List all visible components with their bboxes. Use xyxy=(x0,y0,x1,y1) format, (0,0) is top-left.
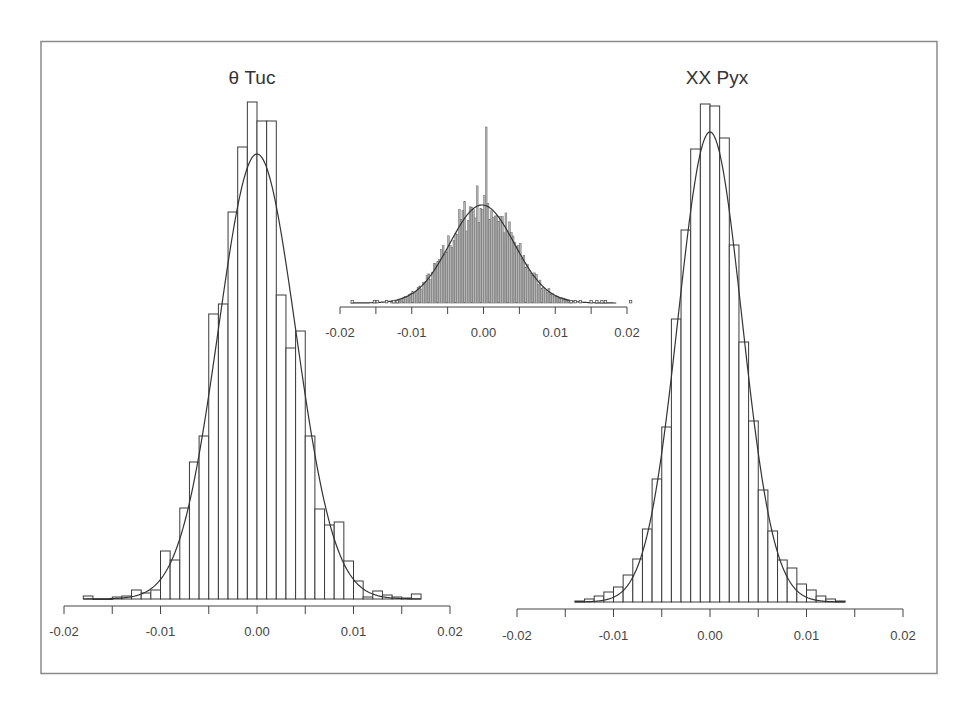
inset-histogram-bar xyxy=(446,252,448,303)
inset-histogram-bar xyxy=(421,289,423,303)
x-tick-label: -0.02 xyxy=(49,624,79,639)
inset-histogram-bar xyxy=(458,210,460,303)
x-tick-label: -0.01 xyxy=(397,325,427,340)
histogram-inset: -0.02-0.010.000.010.02 xyxy=(325,127,639,340)
inset-histogram-bar xyxy=(555,296,557,303)
histogram-theta-tuc: θ Tuc -0.02-0.010.000.010.02 xyxy=(49,67,462,639)
inset-histogram-bar xyxy=(469,207,471,303)
histogram-bar xyxy=(768,531,778,602)
inset-histogram-bar xyxy=(553,296,555,303)
histogram-xx-pyx: XX Pyx -0.02-0.010.000.010.02 xyxy=(502,67,915,643)
x-tick-label: 0.01 xyxy=(794,628,819,643)
inset-histogram-bar xyxy=(451,248,453,303)
inset-histogram-bar xyxy=(491,211,493,303)
outlier-point xyxy=(590,301,592,303)
histogram-bar xyxy=(739,342,749,602)
inset-histogram-bar xyxy=(430,279,432,303)
inset-histogram-bar xyxy=(528,271,530,303)
inset-histogram-bar xyxy=(532,275,534,303)
histogram-bar xyxy=(354,581,364,599)
outlier-point xyxy=(396,301,398,303)
outlier-point xyxy=(604,301,606,303)
x-axis: -0.02-0.010.000.010.02 xyxy=(49,606,462,639)
histogram-bar xyxy=(170,560,180,599)
figure: θ Tuc -0.02-0.010.000.010.02 -0.02-0.010… xyxy=(0,0,971,712)
outlier-point xyxy=(629,301,631,303)
inset-histogram-bar xyxy=(466,231,468,303)
inset-histogram-bar xyxy=(512,236,514,303)
inset-histogram-bar xyxy=(494,216,496,303)
outlier-point xyxy=(385,301,387,303)
x-axis: -0.02-0.010.000.010.02 xyxy=(502,609,915,643)
inset-histogram-bar xyxy=(501,216,503,303)
inset-histogram-bar xyxy=(480,209,482,303)
inset-histogram-bar xyxy=(537,285,539,303)
inset-histogram-bar xyxy=(424,282,426,303)
inset-histogram-bar xyxy=(521,258,523,303)
inset-histogram-bar xyxy=(492,217,494,303)
histogram-bar xyxy=(749,421,759,602)
inset-histogram-bar xyxy=(550,294,552,303)
inset-histogram-bar xyxy=(437,261,439,303)
inset-histogram-bar xyxy=(510,232,512,303)
inset-histogram-bar xyxy=(460,220,462,303)
x-tick-label: -0.02 xyxy=(502,628,532,643)
outlier-point xyxy=(393,301,395,303)
histogram-bar xyxy=(681,230,691,602)
inset-histogram-bar xyxy=(527,264,529,303)
inset-histogram-bar xyxy=(414,293,416,303)
x-tick-label: 0.02 xyxy=(437,624,462,639)
inset-histogram-bar xyxy=(518,245,520,303)
inset-histogram-bar xyxy=(503,233,505,303)
histogram-bars xyxy=(83,102,421,600)
histogram-bar xyxy=(257,121,267,599)
x-tick-label: -0.01 xyxy=(599,628,629,643)
inset-histogram-bar xyxy=(439,259,441,303)
x-tick-label: -0.01 xyxy=(146,624,176,639)
inset-x-axis: -0.02-0.010.000.010.02 xyxy=(325,307,639,340)
inset-histogram-bar xyxy=(484,196,486,303)
inset-histogram-bar xyxy=(475,218,477,303)
inset-histogram-bar xyxy=(516,246,518,303)
histogram-bar xyxy=(296,331,306,599)
inset-histogram-bar xyxy=(473,209,475,303)
inset-histogram-bar xyxy=(401,299,403,303)
x-tick-label: 0.00 xyxy=(244,624,269,639)
histogram-bar xyxy=(276,295,286,599)
histogram-bar xyxy=(305,436,315,599)
inset-histogram-bar xyxy=(500,217,502,303)
histogram-bar xyxy=(642,529,652,602)
inset-histogram-bar xyxy=(449,246,451,303)
outlier-point xyxy=(351,301,353,303)
inset-histogram-bar xyxy=(544,291,546,303)
outlier-point xyxy=(570,301,572,303)
histogram-bar xyxy=(720,138,730,602)
inset-histogram-bar xyxy=(455,233,457,303)
x-tick-label: 0.01 xyxy=(543,325,568,340)
histogram-bar xyxy=(267,121,277,599)
outlier-point xyxy=(601,301,603,303)
histogram-bar xyxy=(161,551,171,599)
histogram-bar xyxy=(411,594,421,599)
histogram-bar xyxy=(151,590,161,599)
inset-histogram-bar xyxy=(478,223,480,303)
inset-histogram-bar xyxy=(541,288,543,303)
inset-histogram-bar xyxy=(415,291,417,303)
histogram-bar xyxy=(363,597,373,599)
inset-histogram-bar xyxy=(467,220,469,303)
inset-histogram-bar xyxy=(525,267,527,303)
inset-histogram-bar xyxy=(471,207,473,303)
x-tick-label: 0.01 xyxy=(341,624,366,639)
histogram-bar xyxy=(710,106,720,602)
histogram-bar xyxy=(652,479,662,602)
inset-histogram-bar xyxy=(543,287,545,303)
inset-histogram-bar xyxy=(489,220,491,303)
chart-title-theta-tuc: θ Tuc xyxy=(229,67,276,88)
inset-histogram-bar xyxy=(496,216,498,303)
histogram-bar xyxy=(729,245,739,602)
inset-histogram-bar xyxy=(530,274,532,303)
inset-histogram-bars xyxy=(390,127,573,303)
x-tick-label: 0.02 xyxy=(614,325,639,340)
histogram-bar xyxy=(209,314,219,599)
inset-histogram-bar xyxy=(559,298,561,303)
